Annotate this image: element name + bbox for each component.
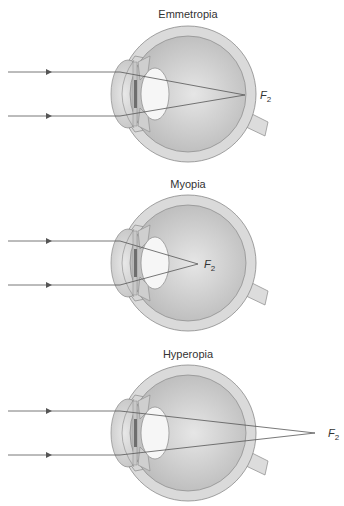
- focal-letter: F: [204, 258, 211, 270]
- arrow-icon: [46, 408, 52, 414]
- panel-title-hyperopia: Hyperopia: [128, 348, 248, 360]
- arrow-icon: [46, 113, 52, 119]
- panel-title-emmetropia: Emmetropia: [128, 8, 248, 20]
- focal-letter: F: [260, 89, 267, 101]
- panel-title-myopia: Myopia: [128, 178, 248, 190]
- focal-label-emmetropia: F2: [260, 89, 271, 104]
- focal-label-hyperopia: F2: [328, 427, 339, 442]
- panel-hyperopia: [8, 365, 315, 501]
- panel-myopia: [8, 195, 268, 331]
- arrow-icon: [46, 452, 52, 458]
- arrow-icon: [46, 238, 52, 244]
- panel-emmetropia: [8, 26, 268, 162]
- focal-subscript: 2: [267, 95, 271, 104]
- focal-subscript: 2: [211, 264, 215, 273]
- focal-label-myopia: F2: [204, 258, 215, 273]
- eye-diagram-svg: [0, 0, 344, 506]
- arrow-icon: [46, 282, 52, 288]
- arrow-icon: [46, 69, 52, 75]
- focal-letter: F: [328, 427, 335, 439]
- focal-subscript: 2: [335, 433, 339, 442]
